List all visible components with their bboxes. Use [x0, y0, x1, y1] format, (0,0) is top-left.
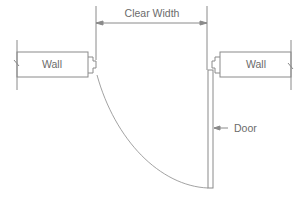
left-door-stop: [88, 57, 96, 73]
door-clearance-diagram: Clear Width Wall Wall Door: [0, 0, 308, 202]
left-arrowhead-icon: [96, 21, 103, 25]
left-wall-label: Wall: [42, 58, 62, 70]
clear-width-label: Clear Width: [125, 7, 180, 19]
door-swing-arc: [97, 75, 208, 188]
right-arrowhead-icon: [200, 21, 207, 25]
door-leader-arrowhead-icon: [214, 126, 220, 130]
right-wall-label: Wall: [246, 58, 266, 70]
door-label: Door: [234, 122, 257, 134]
door-leaf: [208, 70, 213, 188]
